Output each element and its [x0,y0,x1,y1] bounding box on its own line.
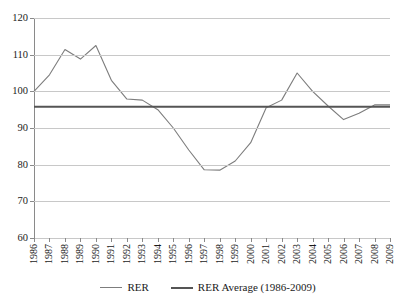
x-axis-label: 1987 [44,244,54,264]
y-tick-100 [30,91,34,92]
rer-line-chart: 60708090100110120 1986198719881989199019… [0,0,416,304]
x-axis-label: 2001 [261,244,271,264]
y-axis-label: 110 [13,49,28,60]
x-axis-label: 1990 [91,244,101,264]
x-axis-label: 1988 [60,244,70,264]
x-tick-2009 [390,238,391,242]
x-axis-label: 1997 [199,244,209,264]
y-tick-120 [30,18,34,19]
y-tick-90 [30,128,34,129]
x-tick-1987 [49,238,50,242]
x-axis-label: 1999 [230,244,240,264]
x-tick-1994 [158,238,159,242]
x-axis-label: 2005 [323,244,333,264]
x-tick-1988 [65,238,66,242]
plot-area [34,18,390,238]
x-tick-1999 [235,238,236,242]
x-tick-2004 [313,238,314,242]
x-axis-label: 2004 [308,244,318,264]
x-tick-1996 [189,238,190,242]
x-tick-2006 [344,238,345,242]
x-axis-label: 1994 [153,244,163,264]
legend-line-icon [100,287,122,288]
x-axis-label: 1996 [184,244,194,264]
gridline-90 [34,128,390,129]
x-axis-label: 2009 [385,244,395,264]
gridline-110 [34,55,390,56]
gridline-70 [34,201,390,202]
x-tick-2002 [282,238,283,242]
x-tick-1989 [80,238,81,242]
y-axis-label: 70 [18,196,29,207]
y-axis-label: 120 [12,13,28,24]
y-axis-label: 90 [18,123,29,134]
x-axis-label: 2003 [292,244,302,264]
y-tick-110 [30,55,34,56]
legend-line-icon [171,287,193,289]
x-tick-2008 [375,238,376,242]
x-tick-1986 [34,238,35,242]
y-axis-label: 100 [12,86,28,97]
x-axis-label: 1993 [137,244,147,264]
x-axis-label: 2006 [339,244,349,264]
x-axis-label: 2000 [246,244,256,264]
x-axis-label: 2002 [277,244,287,264]
x-tick-2003 [297,238,298,242]
x-tick-1993 [142,238,143,242]
y-tick-70 [30,201,34,202]
x-axis-label: 1989 [75,244,85,264]
series-line-rer [34,46,390,171]
x-tick-1997 [204,238,205,242]
x-tick-2000 [251,238,252,242]
y-tick-80 [30,165,34,166]
gridline-120 [34,18,390,19]
legend-label: RER Average (1986-2009) [198,282,316,293]
gridline-100 [34,91,390,92]
legend-entry: RER [100,282,148,293]
chart-legend: RERRER Average (1986-2009) [0,282,416,293]
x-tick-1991 [111,238,112,242]
x-tick-2005 [328,238,329,242]
x-axis-label: 1992 [122,244,132,264]
gridline-80 [34,165,390,166]
x-axis-label: 1986 [29,244,39,264]
legend-label: RER [127,282,148,293]
x-tick-1998 [220,238,221,242]
x-axis-label: 1991 [106,244,116,264]
x-axis-label: 1998 [215,244,225,264]
x-axis-label: 2008 [370,244,380,264]
x-tick-2001 [266,238,267,242]
x-tick-2007 [359,238,360,242]
x-tick-1992 [127,238,128,242]
x-axis-label: 1995 [168,244,178,264]
gridline-60 [34,238,390,239]
y-axis-label: 60 [18,233,29,244]
legend-entry: RER Average (1986-2009) [171,282,316,293]
y-axis-label: 80 [18,159,29,170]
x-tick-1990 [96,238,97,242]
x-tick-1995 [173,238,174,242]
x-axis-label: 2007 [354,244,364,264]
